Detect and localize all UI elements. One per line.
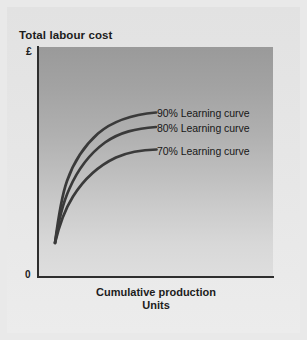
y-axis-zero-tick-label: 0 (25, 269, 31, 280)
learning-curve-figure: Total labour cost £ 0 90% Learning curve… (0, 0, 307, 340)
y-axis-unit-label: £ (26, 45, 32, 57)
legend-entry-90-percent: 90% Learning curve (157, 107, 250, 119)
x-axis-label: Cumulative production Units (39, 286, 273, 312)
page-title: Total labour cost (19, 29, 113, 41)
y-axis-line (37, 46, 39, 278)
x-axis-line (37, 276, 274, 278)
legend-entry-80-percent: 80% Learning curve (157, 122, 250, 134)
x-axis-label-line1: Cumulative production (39, 286, 273, 299)
legend-entry-70-percent: 70% Learning curve (157, 145, 250, 157)
plot-area (39, 47, 273, 277)
x-axis-label-line2: Units (39, 299, 273, 312)
